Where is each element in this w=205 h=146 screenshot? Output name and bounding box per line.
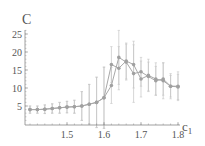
data-point [50, 107, 54, 111]
data-point [65, 105, 69, 109]
data-point [161, 77, 165, 81]
x-tick-label: 1.5 [61, 129, 74, 140]
data-point [139, 77, 143, 81]
data-point [102, 96, 106, 100]
data-point [80, 104, 84, 108]
y-tick-label: 5 [17, 101, 22, 112]
y-tick-label: 25 [12, 29, 22, 40]
chart: 1.51.61.71.8 510152025 C c1 [0, 0, 205, 146]
data-point [87, 102, 91, 106]
data-point [117, 66, 121, 70]
data-point [176, 85, 180, 89]
y-ticks: 510152025 [12, 29, 28, 121]
data-point [147, 75, 151, 79]
data-point [154, 79, 158, 83]
y-tick-label: 20 [12, 47, 22, 58]
data-point [43, 107, 47, 111]
data-point [132, 72, 136, 76]
x-axis-label-sub: 1 [188, 126, 193, 136]
data-point [28, 108, 32, 112]
data-point [95, 101, 99, 105]
data-point [139, 70, 143, 74]
x-axis-label: c1 [182, 119, 192, 136]
x-tick-label: 1.6 [98, 129, 111, 140]
data-point [169, 84, 173, 88]
y-axis-label: C [22, 12, 31, 27]
x-tick-label: 1.7 [135, 129, 148, 140]
data-point [110, 84, 114, 88]
data-point [117, 56, 121, 60]
data-point [110, 63, 114, 67]
data-point [58, 106, 62, 110]
data-point [132, 63, 136, 67]
data-point [36, 108, 40, 112]
data-point [73, 105, 77, 109]
y-tick-label: 15 [12, 65, 22, 76]
y-tick-label: 10 [12, 83, 22, 94]
data-point [124, 60, 128, 64]
